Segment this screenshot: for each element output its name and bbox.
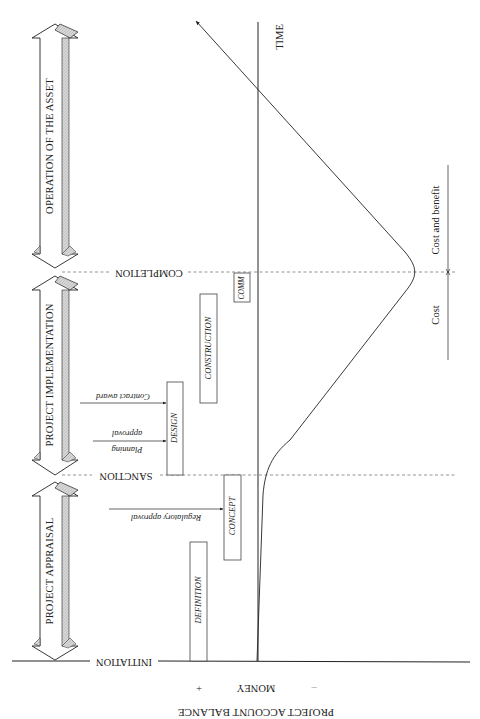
range-cost: Cost — [430, 305, 441, 324]
phase-arrow-appraisal — [32, 482, 78, 660]
phase-label-implementation: PROJECT IMPLEMENTATION — [44, 303, 55, 446]
phase-label-operation: OPERATION OF THE ASSET — [44, 78, 55, 214]
milestone-initiation: INITIATION — [96, 657, 152, 668]
milestone-sanction: SANCTION — [99, 471, 153, 482]
time-axis-label: TIME — [274, 24, 285, 50]
stage-label-design: DESIGN — [169, 412, 179, 445]
phase-label-appraisal: PROJECT APPRAISAL — [44, 518, 55, 625]
money-minus-sign: – — [311, 683, 318, 694]
event-planning-approval-line2: approval — [111, 429, 142, 439]
money-plus-sign: + — [196, 683, 202, 694]
phase-arrow-implementation — [32, 276, 78, 475]
stage-label-construction: CONSTRUCTION — [203, 315, 213, 379]
event-contract-award: Contract award — [95, 392, 150, 402]
stage-label-definition: DEFINITION — [193, 575, 203, 625]
range-cost-and-benefit: Cost and benefit — [430, 186, 441, 255]
event-regulatory-approval: Regulatory approval — [130, 513, 202, 523]
milestone-completion: COMPLETION — [115, 268, 183, 279]
project-lifecycle-diagram: OPERATION OF THE ASSET PROJECT IMPLEMENT… — [0, 0, 480, 719]
phase-arrow-operation — [32, 24, 78, 268]
balance-curve — [196, 21, 415, 661]
stage-label-concept: CONCEPT — [227, 496, 237, 536]
stage-label-comm: COMM — [237, 276, 246, 300]
money-axis-label: MONEY — [236, 683, 275, 694]
balance-axis-label: PROJECT ACCOUNT BALANCE — [178, 707, 334, 719]
event-planning-approval-line1: Planning — [111, 445, 143, 455]
